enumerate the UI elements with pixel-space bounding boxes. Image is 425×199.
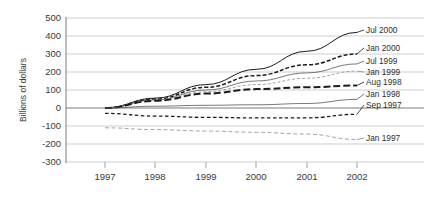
chart-background <box>0 0 425 199</box>
y-tick-label: 500 <box>45 12 61 23</box>
y-tick-label: 200 <box>45 66 61 77</box>
legend-label-sep-1997: Sep 1997 <box>366 100 402 110</box>
legend-label-aug-1998: Aug 1998 <box>366 77 402 87</box>
legend-label-jan-1997: Jan 1997 <box>366 133 401 143</box>
line-chart: 500 400 300 200 100 0 -100 -200 -300 199… <box>0 0 425 199</box>
chart-container: 500 400 300 200 100 0 -100 -200 -300 199… <box>0 0 425 199</box>
x-tick-label: 1998 <box>144 171 165 182</box>
legend-label-jan-2000: Jan 2000 <box>366 43 401 53</box>
y-tick-label: 400 <box>45 30 61 41</box>
x-tick-label: 1997 <box>94 171 115 182</box>
legend-label-jan-1999: Jan 1999 <box>366 67 401 77</box>
x-tick-label: 1999 <box>195 171 216 182</box>
x-tick-label: 2002 <box>346 171 367 182</box>
y-tick-label: -300 <box>42 156 61 167</box>
legend-label-jul-1999: Jul 1999 <box>366 56 398 66</box>
legend-label-jan-1998: Jan 1998 <box>366 89 401 99</box>
y-tick-label: -100 <box>42 120 61 131</box>
y-tick-labels: 500 400 300 200 100 0 -100 -200 -300 <box>42 12 61 167</box>
y-tick-label: 0 <box>56 102 61 113</box>
y-tick-label: 100 <box>45 84 61 95</box>
x-tick-label: 2000 <box>245 171 266 182</box>
y-axis-title: Billions of dollars <box>18 58 28 122</box>
legend-label-jul-2000: Jul 2000 <box>366 25 398 35</box>
y-tick-label: -200 <box>42 138 61 149</box>
x-tick-label: 2001 <box>296 171 317 182</box>
y-tick-label: 300 <box>45 48 61 59</box>
